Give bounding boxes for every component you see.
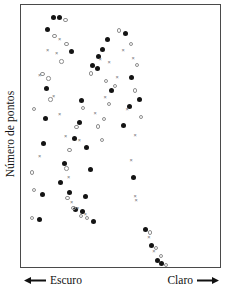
data-point-filled — [41, 141, 46, 146]
data-point-open — [129, 42, 133, 46]
x-axis-right-annotation: Claro — [167, 270, 220, 290]
data-point-cross: × — [51, 94, 56, 99]
data-point-cross: × — [54, 51, 59, 56]
data-point-open — [139, 115, 143, 119]
data-point-open — [133, 88, 137, 92]
data-point-filled — [43, 116, 48, 121]
data-point-cross: × — [98, 57, 103, 62]
data-point-cross: × — [66, 175, 71, 180]
data-point-open — [64, 166, 68, 170]
y-axis-label: Número de pontos — [4, 91, 16, 178]
data-point-open — [89, 71, 93, 75]
data-point-cross: × — [103, 95, 108, 100]
data-point-cross: × — [57, 37, 62, 42]
data-point-open — [63, 18, 67, 22]
data-point-cross: × — [121, 48, 126, 53]
y-axis-label-container: Número de pontos — [0, 0, 20, 268]
data-point-open — [104, 79, 108, 83]
data-point-filled — [90, 63, 95, 68]
data-point-filled — [100, 47, 105, 52]
data-point-open — [107, 102, 111, 106]
data-point-open — [96, 124, 100, 128]
data-point-cross: × — [107, 60, 112, 65]
data-point-filled — [83, 194, 88, 199]
data-point-filled — [57, 15, 62, 20]
data-point-open — [46, 76, 50, 80]
data-point-cross: × — [93, 111, 98, 116]
data-point-filled — [40, 192, 45, 197]
x-axis-right-label: Claro — [167, 274, 193, 286]
data-point-cross: × — [131, 56, 136, 61]
data-point-open — [159, 254, 163, 258]
data-point-open — [67, 148, 71, 152]
data-point-filled — [67, 190, 72, 195]
data-point-filled — [51, 15, 56, 20]
data-point-open — [113, 84, 117, 88]
data-point-open — [32, 107, 36, 111]
x-axis-left-label: Escuro — [50, 274, 82, 286]
data-point-cross: × — [115, 75, 120, 80]
data-point-cross: × — [133, 133, 138, 138]
plot-area: ××××××××××××××××××××××××××× — [20, 4, 221, 268]
data-point-open — [100, 138, 104, 142]
data-point-cross: × — [146, 235, 151, 240]
data-point-open — [81, 106, 85, 110]
data-point-filled — [37, 217, 42, 222]
data-point-filled — [121, 123, 126, 128]
data-point-filled — [91, 219, 96, 224]
data-point-open — [74, 125, 78, 129]
data-point-open — [135, 63, 139, 67]
data-point-filled — [62, 161, 67, 166]
data-point-open — [117, 28, 121, 32]
data-point-filled — [45, 27, 50, 32]
data-point-filled — [88, 167, 93, 172]
arrow-left-icon — [23, 276, 47, 285]
data-point-open — [32, 188, 36, 192]
data-point-cross: × — [83, 212, 88, 217]
data-point-open — [59, 59, 63, 63]
data-point-cross: × — [151, 249, 156, 254]
data-point-cross: × — [129, 158, 134, 163]
data-point-filled — [58, 180, 63, 185]
data-point-filled — [69, 49, 74, 54]
data-point-cross: × — [57, 112, 62, 117]
data-point-open — [30, 170, 34, 174]
data-point-cross: × — [63, 134, 68, 139]
data-point-filled — [105, 37, 110, 42]
data-point-open — [102, 117, 106, 121]
data-point-open — [164, 263, 168, 267]
data-point-cross: × — [77, 138, 82, 143]
data-point-filled — [131, 175, 136, 180]
data-point-cross: × — [37, 154, 42, 159]
data-point-filled — [137, 97, 142, 102]
data-point-filled — [123, 31, 128, 36]
data-point-filled — [95, 66, 100, 71]
data-point-layer: ××××××××××××××××××××××××××× — [21, 5, 220, 267]
scatter-plot-figure: Número de pontos ×××××××××××××××××××××××… — [0, 0, 232, 292]
x-axis-left-annotation: Escuro — [23, 270, 82, 290]
data-point-cross: × — [69, 200, 74, 205]
data-point-filled — [44, 86, 49, 91]
data-point-filled — [84, 145, 89, 150]
data-point-filled — [109, 88, 114, 93]
data-point-open — [64, 42, 68, 46]
data-point-open — [30, 216, 34, 220]
data-point-cross: × — [37, 73, 42, 78]
data-point-filled — [79, 98, 84, 103]
data-point-cross: × — [134, 198, 139, 203]
x-axis-annotation-row: Escuro Claro — [20, 270, 221, 290]
arrow-right-icon — [196, 276, 220, 285]
data-point-cross: × — [75, 206, 80, 211]
data-point-cross: × — [125, 107, 130, 112]
data-point-cross: × — [45, 48, 50, 53]
data-point-filled — [129, 75, 134, 80]
